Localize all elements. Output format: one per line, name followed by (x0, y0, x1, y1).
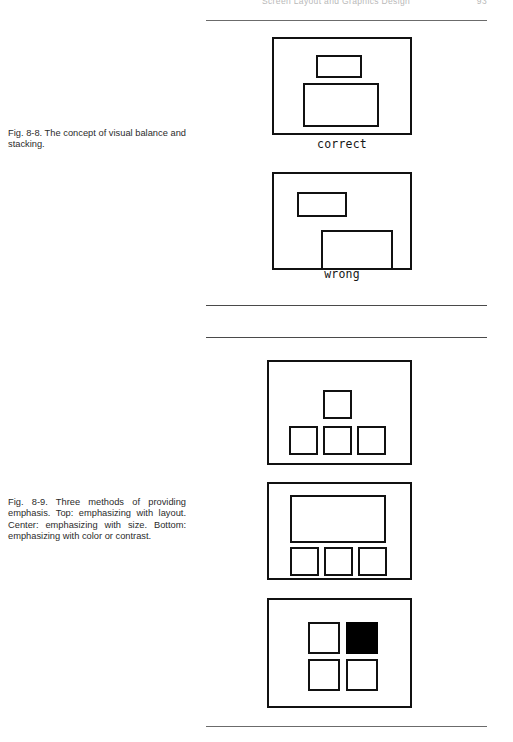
fig-8-8-correct-label: correct (272, 137, 412, 151)
running-head-title: Screen Layout and Graphics Design (262, 0, 410, 6)
fig-8-9-size-square-row-center (324, 547, 353, 576)
fig-8-8-wrong-large-block (321, 230, 393, 270)
running-head: Screen Layout and Graphics Design 93 (206, 0, 487, 8)
fig-8-8-wrong-small-block (297, 192, 347, 217)
fig-8-8-wrong-label: wrong (272, 267, 412, 281)
fig-8-9-layout-emphasis-square-top (323, 390, 352, 419)
fig-8-9-contrast-square-bottom-left (308, 659, 340, 691)
fig-8-9-size-emphasis-wide-block (290, 495, 386, 543)
rule-below-fig-8-9 (206, 726, 487, 727)
fig-8-9-size-square-row-left (290, 547, 319, 576)
fig-8-8-correct-large-block (303, 83, 379, 127)
fig-8-8-wrong-frame (272, 172, 412, 270)
fig-8-9-layout-square-row-left (289, 426, 318, 455)
fig-8-8-correct-small-block (316, 55, 362, 78)
fig-8-9-size-frame (267, 482, 412, 580)
fig-8-9-layout-square-row-right (357, 426, 386, 455)
caption-fig-8-8: Fig. 8-8. The concept of visual balance … (8, 128, 186, 151)
fig-8-9-contrast-square-bottom-right (346, 659, 378, 691)
rule-above-fig-8-8 (206, 20, 487, 21)
fig-8-9-size-square-row-right (358, 547, 387, 576)
running-head-page-number: 93 (477, 0, 487, 6)
rule-above-fig-8-9 (206, 337, 487, 338)
fig-8-9-layout-frame (267, 360, 412, 465)
fig-8-9-contrast-square-top-right-emphasis (346, 622, 378, 654)
fig-8-9-contrast-square-top-left (308, 622, 340, 654)
fig-8-8-correct-frame (272, 37, 412, 135)
rule-below-fig-8-8 (206, 305, 487, 306)
fig-8-9-contrast-frame (267, 598, 412, 708)
caption-fig-8-9: Fig. 8-9. Three methods of providing emp… (8, 497, 186, 543)
fig-8-9-layout-square-row-center (323, 426, 352, 455)
